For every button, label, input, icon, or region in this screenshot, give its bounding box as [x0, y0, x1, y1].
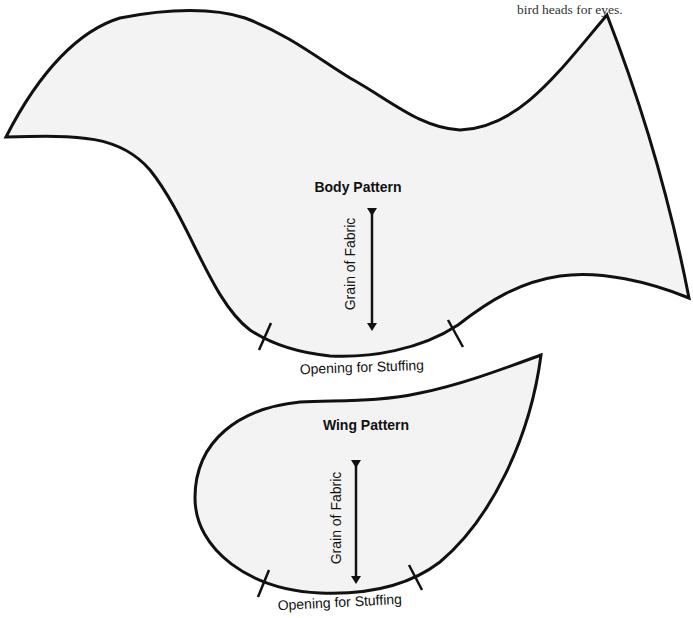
wing-opening-label: Opening for Stuffing: [277, 591, 402, 613]
wing-pattern-outline: [195, 355, 541, 593]
body-opening-label: Opening for Stuffing: [299, 357, 424, 377]
body-pattern-title: Body Pattern: [314, 179, 401, 195]
wing-pattern-title: Wing Pattern: [323, 417, 409, 433]
pattern-diagram: Body Pattern Grain of Fabric Opening for…: [0, 0, 693, 618]
wing-grain-label: Grain of Fabric: [328, 472, 344, 565]
wing-pattern: [195, 355, 541, 597]
body-grain-label: Grain of Fabric: [342, 218, 358, 311]
